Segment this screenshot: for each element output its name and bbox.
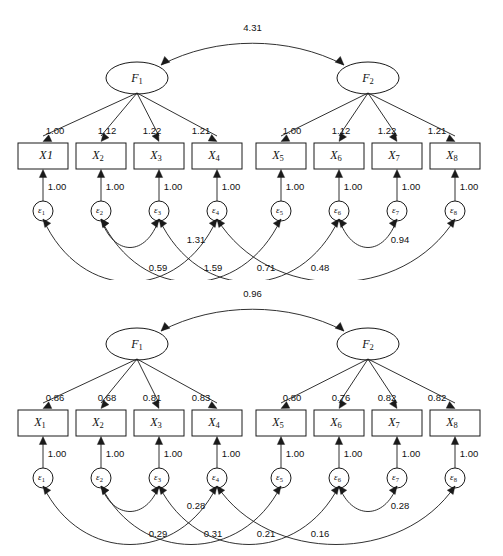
residual-label-4: 1.00 [222, 448, 241, 459]
residual-label-1: 1.00 [48, 181, 67, 192]
indicator-box-5[interactable]: X5 [256, 143, 306, 169]
indicator-box-2[interactable]: X2 [76, 143, 126, 169]
indicator-box-1[interactable]: X1 [18, 143, 68, 169]
error-covariance-label-5: 0.21 [257, 528, 276, 539]
factor-f2-group[interactable]: F2 [337, 328, 399, 360]
error-covariance-group-1 [101, 486, 159, 512]
error-circle-2[interactable]: ε2 [91, 468, 111, 488]
indicator-box-1[interactable]: X1 [18, 410, 68, 436]
residual-arrowhead-2 [97, 170, 104, 178]
error-circle-1[interactable]: ε1 [33, 201, 53, 221]
error-covariance-label-1: 1.31 [187, 234, 206, 245]
factor-covariance-arrowhead-right [335, 322, 344, 331]
factor-f1-group[interactable]: F1 [106, 62, 168, 94]
error-circle-6[interactable]: ε6 [329, 468, 349, 488]
loading-label-2: 1.12 [98, 125, 117, 136]
residual-label-5: 1.00 [286, 448, 305, 459]
error-circle-2[interactable]: ε2 [91, 201, 111, 221]
error-circle-7[interactable]: ε7 [387, 468, 407, 488]
panel-unstandardized: 4.31F1F21.001.121.221.211.001.121.221.21… [0, 0, 503, 280]
error-circle-1[interactable]: ε1 [33, 468, 53, 488]
residual-label-8: 1.00 [460, 448, 479, 459]
indicator-box-5[interactable]: X5 [256, 410, 306, 436]
error-circle-4[interactable]: ε4 [207, 468, 227, 488]
error-covariance-label-3: 0.59 [149, 262, 168, 273]
indicator-box-8[interactable]: X8 [430, 143, 480, 169]
error-covariance-arc-6 [217, 219, 455, 280]
residual-arrowhead-6 [335, 437, 342, 445]
residual-arrowhead-1 [39, 170, 46, 178]
error-covariance-arc-3 [43, 486, 217, 545]
residual-arrowhead-7 [393, 437, 400, 445]
error-covariance-group-4 [101, 219, 281, 280]
loading-label-1: 1.00 [46, 125, 65, 136]
residual-arrowhead-5 [277, 170, 284, 178]
residual-label-7: 1.00 [402, 181, 421, 192]
residual-label-3: 1.00 [164, 448, 183, 459]
residual-label-6: 1.00 [344, 181, 363, 192]
loading-label-3: 0.81 [143, 392, 162, 403]
indicator-box-2[interactable]: X2 [76, 410, 126, 436]
indicator-box-4[interactable]: X4 [192, 143, 242, 169]
residual-label-3: 1.00 [164, 181, 183, 192]
error-covariance-arc-6 [217, 486, 455, 545]
error-covariance-arc-4 [101, 486, 281, 545]
error-circle-7[interactable]: ε7 [387, 201, 407, 221]
factor-covariance-label: 4.31 [243, 22, 262, 33]
indicator-label-1: X [38, 148, 47, 162]
error-covariance-label-4: 0.31 [204, 528, 223, 539]
error-covariance-arc-2 [339, 219, 397, 248]
factor-f2-group[interactable]: F2 [337, 62, 399, 94]
indicator-box-3[interactable]: X3 [134, 143, 184, 169]
error-circle-5[interactable]: ε5 [271, 201, 291, 221]
indicator-box-6[interactable]: X6 [314, 143, 364, 169]
error-covariance-group-6 [217, 486, 455, 545]
error-covariance-group-3 [43, 486, 217, 545]
residual-label-4: 1.00 [222, 181, 241, 192]
loading-label-1: 0.86 [46, 392, 65, 403]
factor-f1-group[interactable]: F1 [106, 328, 168, 360]
error-circle-5[interactable]: ε5 [271, 468, 291, 488]
residual-label-5: 1.00 [286, 181, 305, 192]
indicator-box-6[interactable]: X6 [314, 410, 364, 436]
error-covariance-arc-1 [101, 486, 159, 512]
indicator-box-3[interactable]: X3 [134, 410, 184, 436]
error-covariance-group-4 [101, 486, 281, 545]
loading-label-2: 0.68 [98, 392, 117, 403]
loading-label-5: 1.00 [283, 125, 302, 136]
residual-arrowhead-3 [155, 437, 162, 445]
error-circle-6[interactable]: ε6 [329, 201, 349, 221]
residual-arrowhead-6 [335, 170, 342, 178]
loading-label-3: 1.22 [143, 125, 162, 136]
error-covariance-arc-2 [339, 486, 397, 512]
loading-label-7: 1.22 [378, 125, 397, 136]
indicator-box-8[interactable]: X8 [430, 410, 480, 436]
error-covariance-arc-1 [101, 219, 159, 248]
indicator-box-4[interactable]: X4 [192, 410, 242, 436]
indicator-box-7[interactable]: X7 [372, 143, 422, 169]
residual-arrowhead-5 [277, 437, 284, 445]
error-covariance-group-2 [339, 486, 397, 512]
loading-label-4: 0.83 [192, 392, 211, 403]
error-covariance-group-6 [217, 219, 455, 280]
panel-standardized: 0.96F1F20.860.680.810.830.800.760.820.82… [0, 280, 503, 556]
factor-covariance-arrowhead-right [335, 56, 344, 65]
indicator-label-suffix-1: 1 [47, 148, 53, 162]
error-circle-4[interactable]: ε4 [207, 201, 227, 221]
loading-label-6: 1.12 [332, 125, 351, 136]
residual-label-2: 1.00 [106, 181, 125, 192]
factor-covariance-arc [161, 309, 344, 331]
loading-label-8: 0.82 [428, 392, 447, 403]
loading-label-4: 1.21 [192, 125, 211, 136]
loading-label-6: 0.76 [332, 392, 351, 403]
factor-covariance-label: 0.96 [243, 288, 262, 299]
residual-arrowhead-1 [39, 437, 46, 445]
residual-arrowhead-4 [213, 170, 220, 178]
loading-label-8: 1.21 [428, 125, 447, 136]
error-circle-3[interactable]: ε3 [149, 201, 169, 221]
indicator-box-7[interactable]: X7 [372, 410, 422, 436]
error-circle-8[interactable]: ε8 [445, 201, 465, 221]
error-circle-8[interactable]: ε8 [445, 468, 465, 488]
error-circle-3[interactable]: ε3 [149, 468, 169, 488]
residual-arrowhead-2 [97, 437, 104, 445]
